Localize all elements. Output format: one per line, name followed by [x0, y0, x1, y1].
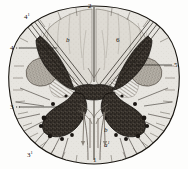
label-1: 1: [93, 156, 97, 164]
label-6: 6: [116, 36, 120, 44]
figure-root: 2 41 b 6 4 5 3 b a1 31 1: [0, 0, 188, 169]
label-a-prime: a1: [104, 141, 110, 149]
label-3: 3: [10, 103, 14, 111]
label-4: 4: [10, 44, 14, 52]
label-5: 5: [174, 61, 178, 69]
white-matter-body: [0, 0, 188, 169]
label-2: 2: [88, 2, 92, 10]
label-4-prime: 41: [24, 13, 30, 21]
anatomical-cross-section-drawing: [0, 0, 188, 169]
label-3-prime: 31: [27, 151, 33, 159]
label-b-upper: b: [66, 36, 70, 44]
label-b-lower: b: [104, 126, 108, 134]
